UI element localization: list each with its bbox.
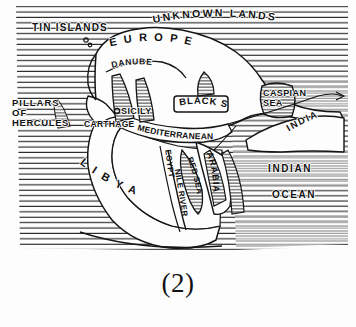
figure-caption: (2) [0,268,356,299]
ancient-world-map: UNKNOWN LANDS TIN ISLANDS EUROPE DANUBE … [0,0,356,265]
label-indian: INDIAN [268,163,312,174]
label-sicily: SICILY [121,106,152,116]
label-carthage: CARTHAGE [84,119,135,129]
label-ocean: OCEAN [272,189,316,200]
label-caspian-sea-line2: SEA [263,98,283,108]
label-caspian-sea-line1: CASPIAN [263,88,306,98]
figure-container: UNKNOWN LANDS TIN ISLANDS EUROPE DANUBE … [0,0,356,327]
label-pillars-line3: HERCULES [12,117,69,128]
label-tin-islands: TIN ISLANDS [32,22,108,33]
